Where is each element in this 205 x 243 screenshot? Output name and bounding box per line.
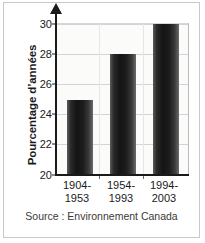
y-axis-line	[55, 11, 57, 175]
y-tick-label-22: 22	[40, 138, 52, 150]
y-tick-label-30: 30	[40, 18, 52, 30]
y-tick-label-26: 26	[40, 78, 52, 90]
bar-1994-2003	[153, 24, 179, 175]
category-separator-2	[143, 24, 144, 175]
source-caption: Source : Environnement Canada	[4, 210, 199, 222]
plot-area: 30 28 26 24 22 20	[56, 23, 189, 175]
x-category-label-3-line2: 2003	[134, 192, 194, 205]
x-category-label-3-line1: 1994-	[134, 179, 194, 192]
bar-1954-1993	[110, 54, 136, 175]
bar-1904-1953	[67, 100, 93, 176]
category-separator-1	[99, 24, 100, 175]
chart-figure: Pourcentage d’années 30 28 26 24 22 20 1	[3, 2, 200, 238]
y-tick-label-24: 24	[40, 108, 52, 120]
x-category-label-3: 1994- 2003	[134, 179, 194, 204]
y-tick-label-28: 28	[40, 48, 52, 60]
x-axis-line	[55, 174, 189, 176]
y-axis-arrow-icon	[50, 3, 62, 14]
y-axis-title: Pourcentage d’années	[26, 30, 38, 180]
